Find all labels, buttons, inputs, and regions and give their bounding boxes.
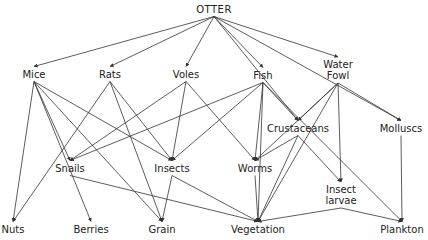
- node-rats: Rats: [99, 69, 121, 80]
- edge-rats-to-insects: [110, 82, 172, 161]
- edge-otter-to-voles: [186, 17, 214, 67]
- edge-mice-to-grain: [34, 82, 162, 222]
- edge-insectlarvae-to-plankton: [341, 208, 402, 222]
- node-vegetation: Vegetation: [231, 224, 285, 235]
- node-grain: Grain: [148, 224, 175, 235]
- edge-crustaceans-to-insectlarvae: [298, 136, 341, 183]
- edge-crustaceans-to-worms: [255, 136, 298, 161]
- node-crustaceans: Crustaceans: [267, 123, 329, 134]
- edge-otter-to-molluscs: [214, 17, 401, 121]
- node-mice: Mice: [22, 69, 45, 80]
- edge-otter-to-mice: [34, 17, 214, 67]
- node-plankton: Plankton: [380, 224, 423, 235]
- node-fish: Fish: [253, 70, 272, 81]
- edge-rats-to-grain: [110, 82, 162, 222]
- edge-crustaceans-to-vegetation: [258, 136, 298, 222]
- edge-waterfowl-to-molluscs: [338, 83, 401, 121]
- node-insects: Insects: [154, 163, 189, 174]
- edge-mice-to-berries: [34, 82, 91, 222]
- edge-rats-to-nuts: [13, 82, 110, 222]
- node-otter: OTTER: [196, 4, 232, 15]
- edge-waterfowl-to-insectlarvae: [338, 83, 341, 182]
- node-molluscs: Molluscs: [380, 123, 423, 134]
- edge-voles-to-insects: [172, 82, 186, 161]
- edge-fish-to-snails: [70, 83, 263, 161]
- edge-fish-to-insects: [172, 83, 263, 161]
- edge-otter-to-rats: [110, 17, 214, 67]
- edge-mice-to-snails: [34, 82, 70, 161]
- node-berries: Berries: [73, 224, 108, 235]
- edge-molluscs-to-plankton: [401, 136, 402, 222]
- edge-mice-to-nuts: [13, 82, 34, 222]
- food-web-diagram: [0, 0, 428, 240]
- node-nuts: Nuts: [2, 224, 25, 235]
- node-snails: Snails: [55, 163, 85, 174]
- node-insectlarvae: Insectlarvae: [325, 184, 356, 206]
- node-worms: Worms: [238, 163, 272, 174]
- node-waterfowl: WaterFowl: [323, 59, 353, 81]
- edge-insectlarvae-to-vegetation: [258, 208, 341, 222]
- node-voles: Voles: [173, 69, 199, 80]
- edge-snails-to-vegetation: [70, 176, 258, 222]
- edge-insects-to-vegetation: [172, 176, 258, 222]
- edge-voles-to-worms: [186, 82, 255, 161]
- edge-mice-to-insects: [34, 82, 172, 161]
- edge-worms-to-vegetation: [255, 176, 258, 222]
